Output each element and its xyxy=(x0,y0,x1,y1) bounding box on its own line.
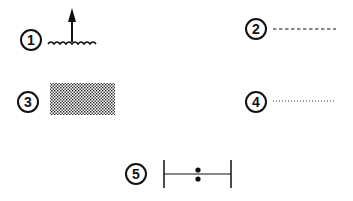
bracketed-range-with-colon-icon xyxy=(0,0,353,201)
